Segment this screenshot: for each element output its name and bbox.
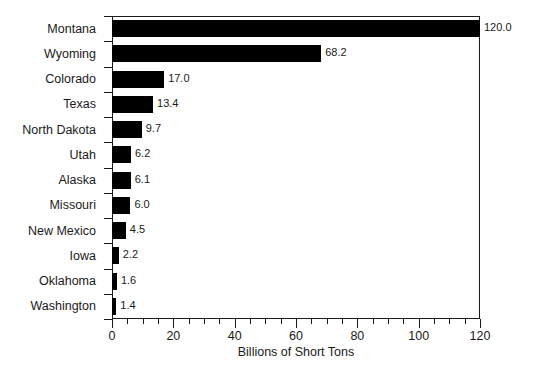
x-axis-minor-tick bbox=[327, 319, 328, 324]
x-axis-major-tick bbox=[480, 319, 481, 328]
bar-wyoming bbox=[112, 45, 321, 62]
bar-value-label: 68.2 bbox=[321, 44, 346, 61]
bar-alaska bbox=[112, 172, 131, 189]
y-axis-tick bbox=[104, 269, 112, 270]
y-axis-tick bbox=[104, 16, 112, 17]
x-axis-minor-tick bbox=[204, 319, 205, 324]
x-axis-minor-tick bbox=[281, 319, 282, 324]
bar-utah bbox=[112, 146, 131, 163]
y-axis-label-iowa: Iowa bbox=[0, 243, 104, 268]
bar-texas bbox=[112, 96, 153, 113]
bar-north-dakota bbox=[112, 121, 142, 138]
x-axis-minor-tick bbox=[158, 319, 159, 324]
bar-value-label: 6.0 bbox=[130, 196, 149, 213]
bar-value-label: 4.5 bbox=[126, 221, 145, 238]
y-axis-tick bbox=[104, 142, 112, 143]
y-axis-tick bbox=[104, 243, 112, 244]
bar-value-label: 6.2 bbox=[131, 145, 150, 162]
y-axis-label-oklahoma: Oklahoma bbox=[0, 269, 104, 294]
bar-row: 1.4 bbox=[112, 294, 480, 319]
bar-chart: MontanaWyomingColoradoTexasNorth DakotaU… bbox=[0, 0, 535, 365]
bar-row: 1.6 bbox=[112, 269, 480, 294]
x-axis-tick-label: 0 bbox=[109, 329, 116, 343]
x-axis-minor-tick bbox=[342, 319, 343, 324]
bar-value-label: 17.0 bbox=[164, 70, 189, 87]
y-axis-tick bbox=[104, 218, 112, 219]
bar-row: 6.2 bbox=[112, 142, 480, 167]
bar-row: 13.4 bbox=[112, 92, 480, 117]
bar-value-label: 9.7 bbox=[142, 120, 161, 137]
x-axis-title: Billions of Short Tons bbox=[112, 345, 480, 359]
x-axis-minor-tick bbox=[388, 319, 389, 324]
bar-value-label: 6.1 bbox=[131, 171, 150, 188]
bar-iowa bbox=[112, 247, 119, 264]
x-axis-tick-label: 40 bbox=[228, 329, 242, 343]
y-axis-tick bbox=[104, 117, 112, 118]
y-axis-tick bbox=[104, 92, 112, 93]
x-axis-tick-label: 120 bbox=[470, 329, 491, 343]
y-axis-tick bbox=[104, 193, 112, 194]
x-axis-major-tick bbox=[173, 319, 174, 328]
x-axis-major-tick bbox=[419, 319, 420, 328]
bar-row: 2.2 bbox=[112, 243, 480, 268]
y-axis-category-labels: MontanaWyomingColoradoTexasNorth DakotaU… bbox=[0, 16, 104, 319]
x-axis-minor-tick bbox=[373, 319, 374, 324]
y-axis-label-texas: Texas bbox=[0, 92, 104, 117]
bar-row: 9.7 bbox=[112, 117, 480, 142]
x-axis-minor-tick bbox=[311, 319, 312, 324]
x-axis-major-tick bbox=[296, 319, 297, 328]
bar-row: 4.5 bbox=[112, 218, 480, 243]
x-axis-minor-tick bbox=[403, 319, 404, 324]
y-axis-tick bbox=[104, 67, 112, 68]
y-axis-label-washington: Washington bbox=[0, 294, 104, 319]
x-axis-minor-tick bbox=[189, 319, 190, 324]
x-axis-tick-label: 80 bbox=[350, 329, 364, 343]
y-axis-label-colorado: Colorado bbox=[0, 67, 104, 92]
x-axis-minor-tick bbox=[434, 319, 435, 324]
x-axis-minor-tick bbox=[465, 319, 466, 324]
x-axis-minor-tick bbox=[127, 319, 128, 324]
y-axis-tick bbox=[104, 168, 112, 169]
bar-value-label: 2.2 bbox=[119, 246, 138, 263]
y-axis-label-new-mexico: New Mexico bbox=[0, 218, 104, 243]
x-axis-major-tick bbox=[357, 319, 358, 328]
x-axis-minor-tick bbox=[250, 319, 251, 324]
x-axis-major-tick bbox=[235, 319, 236, 328]
bar-montana bbox=[112, 20, 480, 37]
x-axis-tick-label: 20 bbox=[166, 329, 180, 343]
bar-row: 6.0 bbox=[112, 193, 480, 218]
y-axis-label-utah: Utah bbox=[0, 142, 104, 167]
bars-layer: 120.068.217.013.49.76.26.16.04.52.21.61.… bbox=[112, 16, 480, 319]
bar-value-label: 1.4 bbox=[116, 297, 135, 314]
bar-new-mexico bbox=[112, 222, 126, 239]
y-axis-tick bbox=[104, 319, 112, 320]
x-axis-minor-tick bbox=[219, 319, 220, 324]
x-axis-minor-tick bbox=[449, 319, 450, 324]
x-axis-tick-label: 100 bbox=[408, 329, 429, 343]
bar-missouri bbox=[112, 197, 130, 214]
y-axis-label-montana: Montana bbox=[0, 16, 104, 41]
bar-value-label: 13.4 bbox=[153, 95, 178, 112]
y-axis-label-missouri: Missouri bbox=[0, 193, 104, 218]
x-axis-minor-tick bbox=[143, 319, 144, 324]
y-axis-tick bbox=[104, 41, 112, 42]
bar-row: 17.0 bbox=[112, 67, 480, 92]
bar-row: 120.0 bbox=[112, 16, 480, 41]
y-axis-label-north-dakota: North Dakota bbox=[0, 117, 104, 142]
x-axis-tick-label: 60 bbox=[289, 329, 303, 343]
x-axis-major-tick bbox=[112, 319, 113, 328]
y-axis-label-wyoming: Wyoming bbox=[0, 41, 104, 66]
y-axis-label-alaska: Alaska bbox=[0, 168, 104, 193]
bar-value-label: 120.0 bbox=[480, 19, 512, 36]
x-axis-ticks bbox=[112, 319, 480, 329]
bar-value-label: 1.6 bbox=[117, 272, 136, 289]
bar-row: 68.2 bbox=[112, 41, 480, 66]
x-axis-minor-tick bbox=[265, 319, 266, 324]
y-axis-tick bbox=[104, 294, 112, 295]
bar-row: 6.1 bbox=[112, 168, 480, 193]
bar-colorado bbox=[112, 71, 164, 88]
